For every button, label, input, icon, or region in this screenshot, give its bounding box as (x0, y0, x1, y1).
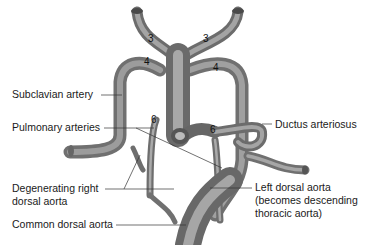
label-left-dorsal-line2: (becomes descending (255, 194, 358, 207)
arch-4-left: 4 (144, 56, 150, 67)
right-arch-4-subclavian (70, 63, 160, 152)
arch-3-left: 3 (148, 33, 154, 44)
label-left-dorsal-line1: Left dorsal aorta (255, 181, 331, 194)
arch-6-left: 6 (151, 114, 157, 125)
label-common-dorsal-aorta: Common dorsal aorta (12, 218, 113, 231)
arch-6-right: 6 (210, 124, 216, 135)
arch-4-right: 4 (213, 62, 219, 73)
label-degenerating-line2: dorsal aorta (12, 195, 67, 208)
subclavian-opening (68, 145, 74, 157)
label-pulmonary-arteries: Pulmonary arteries (12, 121, 100, 134)
leader-degenerating-a (124, 155, 140, 189)
degenerating-right-dorsal (150, 195, 175, 222)
arch-3-right: 3 (203, 33, 209, 44)
label-ductus-arteriosus: Ductus arteriosus (275, 118, 357, 131)
label-degenerating-line1: Degenerating right (12, 182, 98, 195)
label-left-dorsal-line3: thoracic aorta) (255, 207, 322, 220)
label-subclavian-artery: Subclavian artery (12, 88, 93, 101)
